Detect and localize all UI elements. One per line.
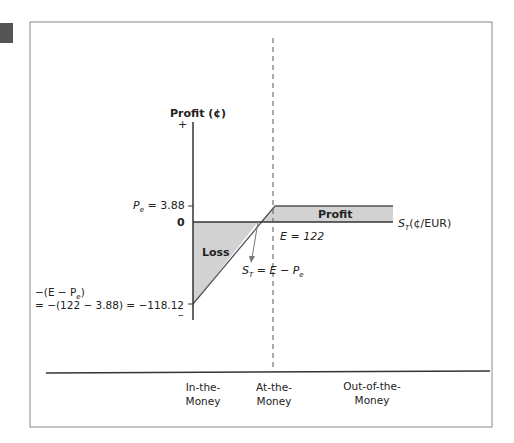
max-loss-line2: = −(122 − 3.88) = −118.12 bbox=[35, 299, 184, 311]
itm-label-1: In-the- bbox=[186, 381, 221, 393]
x-axis-label: ST(¢/EUR) bbox=[398, 217, 451, 232]
itm-label-2: Money bbox=[186, 395, 221, 407]
x-axis-symbol: S bbox=[398, 217, 405, 230]
corner-marker bbox=[0, 23, 13, 43]
pe-label: Pe = 3.88 bbox=[133, 199, 185, 214]
profit-region-label: Profit bbox=[318, 208, 352, 221]
payoff-diagram: Profit (¢) + – Pe = 3.88 0 Profit Loss S… bbox=[0, 0, 514, 443]
max-loss-b: ) bbox=[81, 286, 85, 298]
loss-region-label: Loss bbox=[202, 246, 230, 259]
arrowhead-icon bbox=[249, 256, 255, 263]
max-loss-a: −(E − P bbox=[35, 286, 76, 298]
breakeven-label: ST = E − Pe bbox=[242, 264, 304, 279]
pe-value: = 3.88 bbox=[144, 199, 185, 212]
moneyness-axis bbox=[46, 371, 490, 373]
breakeven-s: S bbox=[242, 264, 249, 277]
zero-label: 0 bbox=[177, 216, 185, 229]
strike-label: E = 122 bbox=[280, 230, 324, 243]
breakeven-rest: = E − P bbox=[253, 264, 299, 277]
y-plus-label: + bbox=[178, 118, 187, 131]
atm-label-1: At-the- bbox=[256, 381, 292, 393]
breakeven-e: e bbox=[299, 271, 303, 279]
otm-label-1: Out-of-the- bbox=[343, 380, 401, 392]
atm-label-2: Money bbox=[257, 395, 292, 407]
x-axis-unit: (¢/EUR) bbox=[409, 217, 451, 230]
otm-label-2: Money bbox=[355, 394, 390, 406]
